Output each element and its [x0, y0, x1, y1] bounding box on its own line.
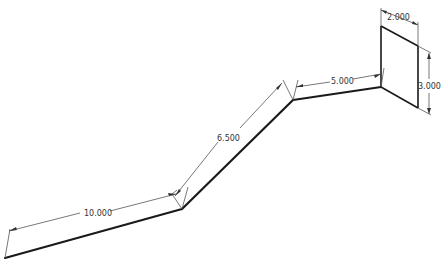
dimension-line: [175, 142, 218, 196]
dimension-5: 5.000: [293, 68, 384, 100]
plate-bottom-edge: [381, 87, 418, 108]
plate-top-edge: [381, 26, 418, 46]
dimension-6-5: 6.500: [175, 80, 293, 209]
arrowhead: [9, 227, 17, 231]
dimension-line: [9, 213, 80, 231]
arrowhead: [374, 74, 381, 78]
dimension-label: 3.000: [418, 82, 441, 91]
extension-line: [172, 194, 182, 209]
dimension-label: 5.000: [331, 77, 354, 86]
extension-line: [293, 80, 298, 100]
part-profile: [5, 26, 418, 258]
arrowhead: [427, 53, 431, 59]
dimension-label: 6.500: [217, 134, 240, 143]
extension-line: [172, 190, 177, 194]
segment-3-edge: [293, 87, 381, 100]
dimension-line: [110, 194, 176, 211]
extension-line: [5, 229, 10, 258]
dimension-label: 10.000: [84, 209, 112, 218]
dimension-2: 2.000: [381, 8, 418, 46]
isometric-drawing: 10.000 6.500 5.000 2.000 3.00: [0, 0, 443, 265]
arrowhead: [412, 21, 418, 25]
segment-2-edge: [182, 100, 293, 209]
extension-line: [418, 46, 431, 53]
dimension-label: 2.000: [387, 13, 410, 22]
dimension-10: 10.000: [5, 190, 182, 258]
extension-line: [283, 80, 293, 100]
dimension-line: [240, 83, 282, 128]
dimension-3: 3.000: [418, 46, 441, 115]
